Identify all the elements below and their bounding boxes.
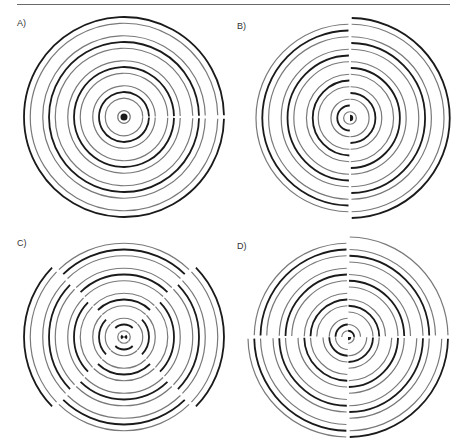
- ring-arc: [349, 281, 404, 336]
- panel-d-rings: [248, 237, 448, 437]
- ring-arc: [196, 268, 224, 407]
- panel-c-rings: [24, 243, 224, 430]
- ring-arc: [178, 285, 199, 389]
- ring-arc: [273, 338, 347, 412]
- ring-arc: [311, 338, 348, 375]
- ring-arc: [120, 331, 129, 333]
- ring-arc: [351, 62, 406, 174]
- ring-arc: [146, 315, 155, 358]
- ring-arc: [350, 339, 448, 437]
- ring-arc: [342, 331, 348, 337]
- ring-arc: [85, 377, 163, 393]
- ring-arc: [349, 256, 429, 336]
- ring-arc: [348, 337, 366, 355]
- ring-figure: [0, 0, 460, 447]
- ring-arc: [120, 342, 129, 344]
- ring-arc: [155, 307, 167, 368]
- ring-arc: [286, 275, 347, 336]
- ring-arc: [49, 285, 70, 389]
- ring-arc: [348, 331, 354, 337]
- ring-arc: [115, 325, 132, 329]
- ring-arc: [118, 333, 120, 342]
- ring-arc: [111, 318, 137, 323]
- ring-arc: [102, 359, 145, 368]
- ring-arc: [182, 281, 205, 394]
- center-dot: [121, 335, 124, 340]
- ring-arc: [85, 281, 163, 297]
- panel-a-rings: [24, 17, 224, 217]
- ring-arc: [74, 302, 88, 371]
- ring-arc: [329, 337, 347, 355]
- ring-arc: [351, 37, 431, 199]
- ring-arc: [349, 262, 423, 336]
- center-dot: [121, 114, 128, 121]
- ring-arc: [349, 287, 398, 336]
- panel-b-rings: [256, 18, 450, 218]
- center-dot: [350, 115, 353, 121]
- ring-arc: [129, 333, 131, 342]
- ring-arc: [98, 364, 150, 375]
- ring-arc: [350, 237, 448, 335]
- center-dot: [348, 337, 351, 340]
- ring-arc: [93, 315, 102, 358]
- center-dot: [124, 335, 127, 340]
- ring-arc: [331, 99, 350, 137]
- ring-arc: [115, 346, 132, 350]
- ring-arc: [248, 339, 346, 437]
- ring-arc: [344, 112, 350, 125]
- ring-arc: [349, 338, 380, 369]
- ring-arc: [336, 337, 348, 349]
- ring-arc: [281, 49, 349, 186]
- ring-arc: [173, 289, 192, 385]
- ring-arc: [351, 87, 382, 150]
- ring-arc: [318, 87, 349, 150]
- ring-arc: [329, 318, 347, 336]
- ring-arc: [349, 338, 423, 412]
- ring-arc: [80, 307, 92, 368]
- ring-arc: [350, 93, 375, 143]
- ring-arc: [102, 306, 145, 315]
- ring-arc: [59, 243, 189, 269]
- ring-arc: [349, 300, 386, 337]
- ring-arc: [55, 289, 74, 385]
- ring-arc: [349, 338, 404, 393]
- ring-arc: [311, 300, 348, 337]
- ring-arc: [160, 302, 174, 371]
- ring-arc: [43, 281, 66, 394]
- ring-arc: [105, 324, 110, 350]
- ring-arc: [24, 268, 52, 407]
- ring-arc: [111, 350, 137, 355]
- ring-arc: [137, 324, 142, 350]
- ring-arc: [98, 299, 150, 310]
- ring-arc: [59, 404, 189, 430]
- ring-arc: [351, 43, 425, 193]
